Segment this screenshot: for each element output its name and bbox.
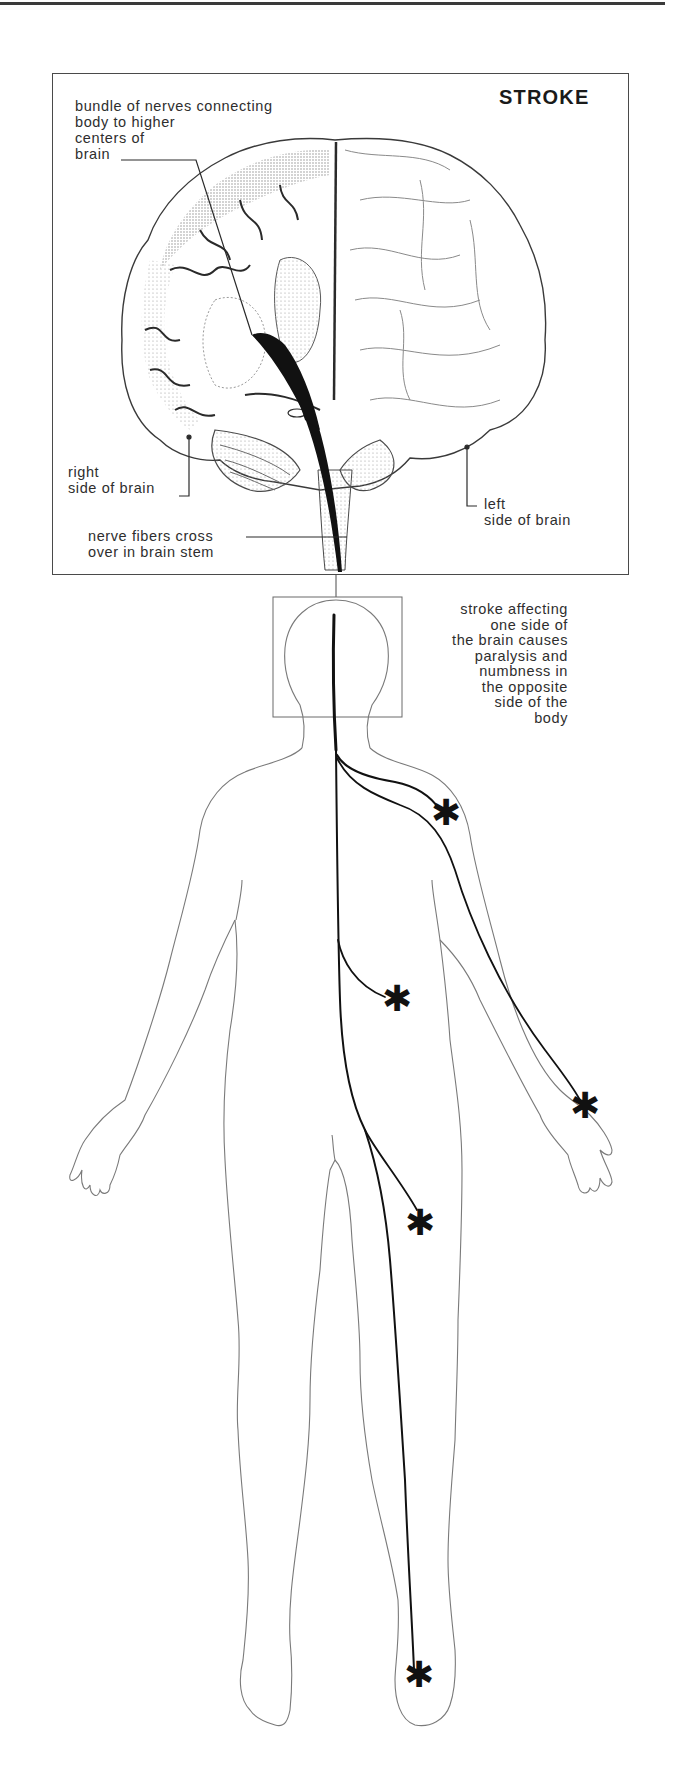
body-outline [70,600,612,1726]
label-nerve-bundle: bundle of nerves connecting body to high… [75,98,273,162]
left-side-leader [467,447,477,506]
stroke-illustration [0,0,681,1777]
brain-illustration [122,139,546,572]
paralysis-marker-foot-icon: ✱ [404,1657,434,1693]
paralysis-marker-thigh-icon: ✱ [405,1205,435,1241]
label-nerve-fibers-cross: nerve fibers cross over in brain stem [88,528,214,560]
label-left-side-of-brain: left side of brain [484,496,571,528]
nerve-pathways [333,615,580,1670]
head-inset-box [273,597,402,717]
label-right-side-of-brain: right side of brain [68,464,155,496]
caption-stroke-effects: stroke affecting one side of the brain c… [410,602,568,726]
paralysis-marker-hand-icon: ✱ [570,1088,600,1124]
paralysis-marker-abdomen-icon: ✱ [382,981,412,1017]
figure-title: STROKE [499,86,590,109]
paralysis-marker-shoulder-icon: ✱ [431,795,461,831]
